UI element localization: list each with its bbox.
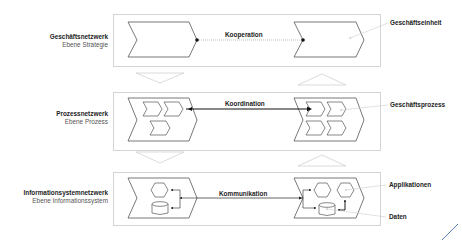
process-layer-label: Prozessnetzwerk Ebene Prozess	[0, 110, 108, 126]
cooperation-dot-right	[301, 38, 305, 42]
process-chain-left	[128, 98, 197, 141]
infosystem-right	[294, 178, 364, 218]
data-annotation: Daten	[389, 213, 407, 220]
coordination-label: Koordination	[225, 100, 265, 107]
cooperation-label: Kooperation	[225, 31, 263, 38]
database-cylinder	[319, 203, 335, 208]
business-process-annotation: Geschäftsprozess	[390, 101, 445, 108]
database-cylinder	[152, 202, 168, 207]
infosystem-layer-label: Informationsystemnetzwerk Ebene Informat…	[0, 189, 108, 205]
applications-pointer	[346, 185, 386, 190]
strategy-layer-subtitle: Ebene Strategie	[0, 41, 108, 49]
strategy-layer-title: Geschäftsnetzwerk	[0, 33, 108, 41]
application-hexagon	[151, 183, 168, 197]
pen-stroke-mark	[442, 224, 458, 240]
application-hexagon	[314, 183, 331, 197]
process-chain-right	[294, 98, 364, 141]
infosystem-left	[128, 178, 197, 218]
business-unit-pointer	[350, 23, 388, 38]
process-layer-title: Prozessnetzwerk	[0, 110, 108, 118]
business-unit-left	[128, 22, 197, 57]
up-arrow-1	[298, 74, 346, 85]
communication-label: Kommunikation	[219, 190, 267, 197]
down-arrow-2	[136, 152, 184, 163]
infosystem-layer-subtitle: Ebene Informationssystem	[0, 197, 108, 205]
process-layer-subtitle: Ebene Prozess	[0, 118, 108, 126]
cooperation-dot-left	[195, 38, 199, 42]
business-unit-annotation: Geschäftseinheit	[390, 19, 442, 26]
business-process-pointer	[341, 105, 388, 110]
strategy-layer-label: Geschäftsnetzwerk Ebene Strategie	[0, 33, 108, 49]
applications-annotation: Applikationen	[389, 181, 431, 188]
up-arrow-2	[298, 155, 346, 166]
down-arrow-1	[136, 73, 184, 83]
infosystem-layer-title: Informationsystemnetzwerk	[0, 189, 108, 197]
